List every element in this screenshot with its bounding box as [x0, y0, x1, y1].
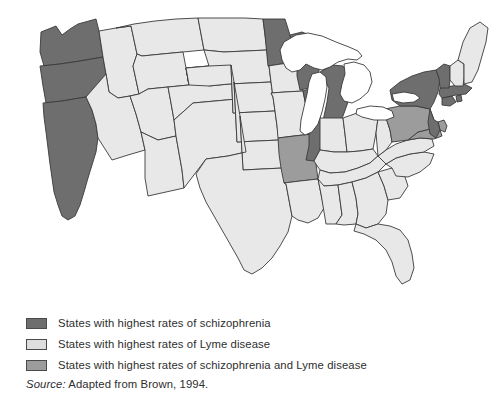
legend-label-schizophrenia: States with highest rates of schizophren…: [58, 317, 271, 330]
lake-huron-shape: [340, 62, 372, 103]
legend-item-both: States with highest rates of schizophren…: [26, 355, 466, 375]
source-prefix: Source:: [26, 378, 66, 390]
legend-swatch-both: [26, 360, 47, 371]
state-ny: New York: [390, 70, 440, 109]
state-nd: North Dakota: [198, 18, 267, 52]
legend-label-lyme: States with highest rates of Lyme diseas…: [58, 338, 270, 351]
source-note: Source: Adapted from Brown, 1994.: [26, 378, 208, 390]
figure-container: WashingtonOregonCaliforniaIdahoNevadaMon…: [0, 0, 501, 404]
us-map-svg: WashingtonOregonCaliforniaIdahoNevadaMon…: [0, 2, 501, 302]
state-fl: Florida: [354, 224, 414, 284]
map-legend: States with highest rates of schizophren…: [26, 313, 466, 376]
legend-item-lyme: States with highest rates of Lyme diseas…: [26, 334, 466, 354]
legend-label-both: States with highest rates of schizophren…: [58, 359, 367, 372]
legend-item-schizophrenia: States with highest rates of schizophren…: [26, 313, 466, 333]
state-nh: New Hampshire: [450, 60, 464, 86]
source-text: Adapted from Brown, 1994.: [66, 378, 209, 390]
us-choropleth-map: WashingtonOregonCaliforniaIdahoNevadaMon…: [0, 2, 501, 302]
state-ca: California: [43, 97, 98, 220]
states-layer: WashingtonOregonCaliforniaIdahoNevadaMon…: [40, 18, 488, 284]
state-nj: New Jersey: [428, 109, 440, 138]
legend-swatch-schizophrenia: [26, 318, 47, 329]
state-in: Indiana: [320, 118, 347, 152]
legend-swatch-lyme: [26, 339, 47, 350]
state-ri: Rhode Island: [456, 95, 462, 102]
